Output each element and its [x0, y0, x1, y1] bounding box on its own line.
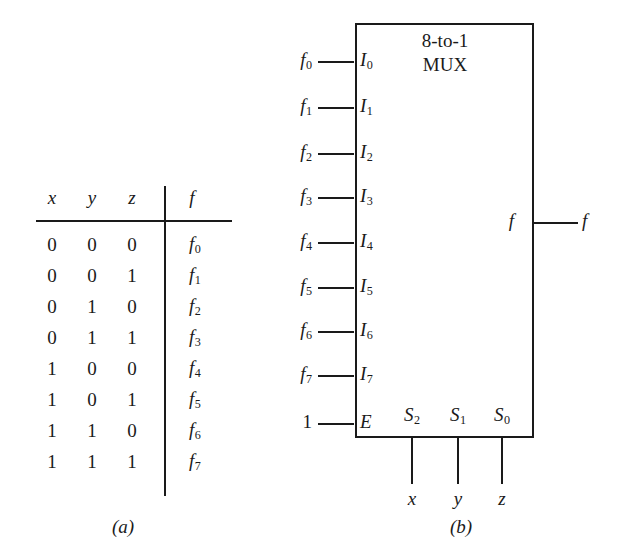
signal-label-output-f: f	[582, 211, 604, 230]
signal-label-y: y	[443, 489, 473, 508]
wire-output-f	[534, 222, 578, 224]
signal-label-f7: f7	[278, 364, 312, 386]
port-label-i3: I3	[360, 186, 394, 208]
wire-s2-to-x	[411, 438, 413, 484]
signal-label-f5: f5	[278, 276, 312, 298]
wire-f7-to-i7	[318, 375, 354, 377]
wire-one-to-enable	[318, 423, 354, 425]
port-label-s2: S2	[397, 405, 427, 427]
wire-f1-to-i1	[318, 107, 354, 109]
port-label-i0: I0	[360, 50, 394, 72]
port-label-s0: S0	[487, 405, 517, 427]
signal-label-f4: f4	[278, 231, 312, 253]
wire-s0-to-z	[501, 438, 503, 484]
wire-f6-to-i6	[318, 331, 354, 333]
port-label-i4: I4	[360, 231, 394, 253]
wire-f2-to-i2	[318, 153, 354, 155]
wire-f5-to-i5	[318, 287, 354, 289]
port-label-i1: I1	[360, 96, 394, 118]
signal-label-f6: f6	[278, 320, 312, 342]
port-label-i5: I5	[360, 276, 394, 298]
signal-label-f1: f1	[278, 96, 312, 118]
mux-title: 8-to-1 MUX	[375, 29, 515, 77]
signal-label-f0: f0	[278, 50, 312, 72]
signal-label-f2: f2	[278, 142, 312, 164]
wire-f3-to-i3	[318, 197, 354, 199]
wire-f4-to-i4	[318, 242, 354, 244]
mux-title-line-1: 8-to-1	[422, 30, 468, 51]
port-label-i6: I6	[360, 320, 394, 342]
wire-f0-to-i0	[318, 61, 354, 63]
port-label-s1: S1	[443, 405, 473, 427]
caption-a: (a)	[93, 516, 153, 538]
wire-s1-to-y	[457, 438, 459, 484]
mux-schematic: 8-to-1 MUX f0 I0 f1 I1 f2 I2 f3 I3 f4 I	[0, 0, 621, 557]
figure-8to1-mux-function-implementation: x y z f 0 0 0 f0 0 0 1 f1 0 1 0	[0, 0, 621, 557]
caption-b: (b)	[431, 516, 491, 538]
mux-title-line-2: MUX	[423, 54, 467, 75]
signal-label-x: x	[397, 489, 427, 508]
port-label-i2: I2	[360, 142, 394, 164]
signal-label-constant-one: 1	[278, 412, 312, 431]
signal-label-f3: f3	[278, 186, 312, 208]
port-label-i7: I7	[360, 364, 394, 386]
port-label-output-f: f	[492, 211, 514, 230]
port-label-enable: E	[360, 412, 394, 431]
signal-label-z: z	[487, 489, 517, 508]
